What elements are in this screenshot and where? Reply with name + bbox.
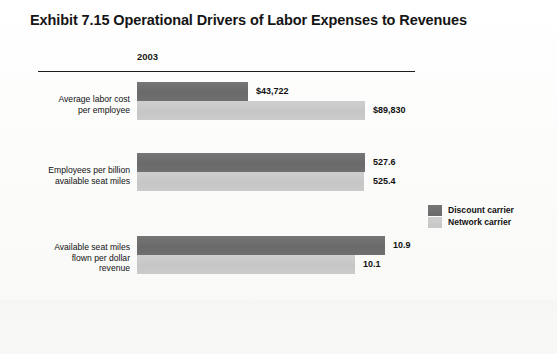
category-label-line2: per employee — [78, 105, 130, 115]
bar-value-network: 10.1 — [363, 259, 381, 269]
category-label-line2: available seat miles — [55, 176, 130, 186]
category-label: Employees per billion available seat mil… — [30, 165, 130, 186]
category-label: Average labor cost per employee — [30, 94, 130, 115]
legend-item-discount-carrier: Discount carrier — [428, 204, 514, 216]
bar-value-discount: $43,722 — [256, 86, 289, 96]
chart-legend: Discount carrier Network carrier — [428, 204, 514, 228]
category-label-line2: flown per dollar — [72, 253, 130, 263]
category-label-line1: Employees per billion — [48, 165, 130, 175]
legend-label-discount: Discount carrier — [448, 205, 514, 215]
legend-swatch-icon-discount — [428, 205, 442, 216]
category-label-line1: Average labor cost — [59, 94, 131, 104]
page-title: Exhibit 7.15 Operational Drivers of Labo… — [30, 12, 467, 28]
bar-discount-carrier — [137, 236, 385, 255]
axis-rule — [38, 71, 415, 72]
bar-value-discount: 10.9 — [393, 240, 411, 250]
exhibit-figure: Exhibit 7.15 Operational Drivers of Labo… — [0, 0, 557, 354]
bar-value-network: 525.4 — [373, 176, 396, 186]
axis-year-label: 2003 — [137, 51, 158, 62]
bar-network-carrier — [137, 255, 355, 274]
category-label: Available seat miles flown per dollar re… — [30, 242, 130, 274]
bar-network-carrier — [137, 101, 365, 120]
bar-network-carrier — [137, 172, 364, 191]
bar-value-discount: 527.6 — [373, 157, 396, 167]
legend-label-network: Network carrier — [448, 217, 511, 227]
bar-discount-carrier — [137, 153, 365, 172]
category-label-line3: revenue — [99, 263, 130, 273]
legend-item-network-carrier: Network carrier — [428, 216, 514, 228]
category-label-line1: Available seat miles — [54, 242, 130, 252]
legend-swatch-icon-network — [428, 217, 442, 228]
bar-value-network: $89,830 — [373, 105, 406, 115]
bar-discount-carrier — [137, 82, 248, 101]
